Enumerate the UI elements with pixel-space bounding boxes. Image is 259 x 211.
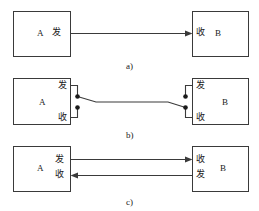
panel-a-right-device-label: B bbox=[215, 29, 221, 38]
panel-a-right-receive-port-label: 收 bbox=[196, 28, 205, 37]
panel-b-caption: b) bbox=[126, 131, 134, 140]
communication-link-diagram: A 发 收 B a) 发 A 收 发 B 收 b) A 发 收 收 发 B c) bbox=[0, 0, 259, 211]
panel-b-right-send-dot bbox=[183, 94, 188, 99]
panel-b-left-recv-dot bbox=[75, 105, 80, 110]
panel-c-left-device-label: A bbox=[37, 164, 44, 173]
panel-b-left-receive-port-label: 收 bbox=[58, 113, 67, 122]
panel-a-caption: a) bbox=[126, 62, 133, 71]
panel-c-left-receive-port-label: 收 bbox=[55, 170, 64, 179]
panel-b-right-send-port-label: 发 bbox=[196, 81, 205, 90]
panel-b-right-receive-port-label: 收 bbox=[196, 113, 205, 122]
panel-c-left-send-port-label: 发 bbox=[55, 155, 64, 164]
panel-c-forward-arrowhead bbox=[185, 156, 193, 162]
panel-c-return-arrowhead bbox=[71, 172, 79, 178]
panel-c-right-device-label: B bbox=[220, 164, 226, 173]
panel-c-caption: c) bbox=[126, 198, 133, 207]
panel-b-left-device-label: A bbox=[39, 98, 46, 107]
panel-a-arrowhead bbox=[185, 30, 193, 36]
panel-b-left-send-dot bbox=[75, 94, 80, 99]
panel-b-right-device-label: B bbox=[222, 98, 228, 107]
panel-b-left-send-port-label: 发 bbox=[58, 81, 67, 90]
panel-c-right-receive-port-label: 收 bbox=[196, 155, 205, 164]
panel-c-right-send-port-label: 发 bbox=[196, 170, 205, 179]
panel-b-right-recv-dot bbox=[183, 105, 188, 110]
panel-a-left-device-label: A bbox=[37, 29, 44, 38]
panel-b-crossover-wire-upper bbox=[78, 97, 186, 108]
panel-a-left-send-port-label: 发 bbox=[52, 28, 61, 37]
